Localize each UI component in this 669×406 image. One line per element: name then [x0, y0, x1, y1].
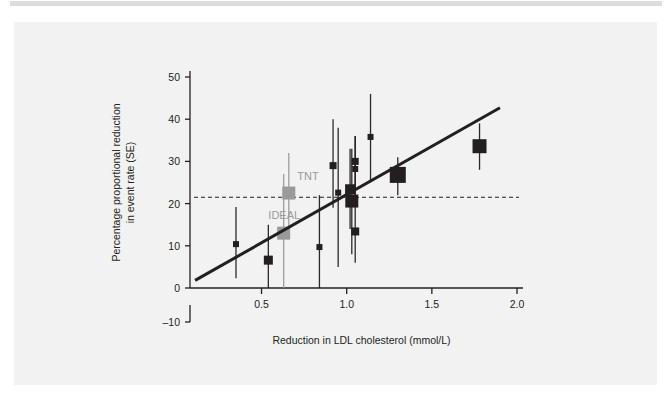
- data-point-marker[interactable]: [352, 158, 359, 165]
- top-scan-strip: [10, 1, 662, 6]
- figure-root: –10010203040500.51.01.52.0Reduction in L…: [0, 0, 669, 406]
- data-point-marker[interactable]: [264, 256, 273, 265]
- annotation-label-ideal: IDEAL: [268, 209, 300, 221]
- x-tick-label-0.5: 0.5: [254, 298, 269, 310]
- annotation-label-tnt: TNT: [297, 170, 319, 182]
- regression-line: [195, 108, 500, 281]
- y-tick-label--10: –10: [162, 316, 180, 328]
- figure-panel: –10010203040500.51.01.52.0Reduction in L…: [14, 22, 657, 385]
- data-point-marker[interactable]: [282, 187, 295, 200]
- data-point-marker[interactable]: [345, 195, 358, 208]
- x-tick-label-1.5: 1.5: [425, 298, 440, 310]
- y-tick-label-0: 0: [174, 282, 180, 294]
- y-tick-label-30: 30: [168, 155, 180, 167]
- x-axis-title: Reduction in LDL cholesterol (mmol/L): [272, 334, 450, 346]
- y-tick-label-50: 50: [168, 71, 180, 83]
- data-point-marker[interactable]: [351, 227, 359, 235]
- x-tick-label-2.0: 2.0: [510, 298, 525, 310]
- data-point-marker[interactable]: [335, 190, 341, 196]
- data-point-marker[interactable]: [233, 241, 239, 247]
- y-axis-title-line1: Percentage proportional reduction: [110, 103, 122, 261]
- data-point-marker[interactable]: [368, 134, 374, 140]
- y-tick-label-10: 10: [168, 240, 180, 252]
- data-point-marker[interactable]: [316, 244, 322, 250]
- series-1: [233, 94, 487, 288]
- y-tick-label-20: 20: [168, 198, 180, 210]
- x-tick-label-1.0: 1.0: [339, 298, 354, 310]
- y-axis-title-line2: in event rate (SE): [124, 142, 136, 224]
- data-point-marker[interactable]: [330, 162, 337, 169]
- y-tick-label-40: 40: [168, 113, 180, 125]
- data-point-marker[interactable]: [352, 166, 358, 172]
- data-point-marker[interactable]: [473, 139, 487, 153]
- scatter-plot: –10010203040500.51.01.52.0Reduction in L…: [14, 22, 657, 385]
